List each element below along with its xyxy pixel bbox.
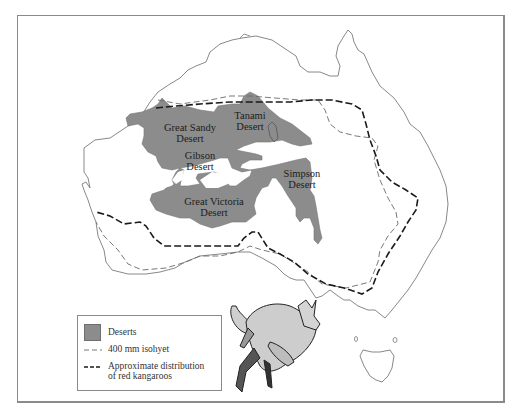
legend-label: Deserts: [108, 327, 137, 337]
island-king: [355, 337, 358, 342]
legend-label: Approximate distribution: [108, 361, 204, 371]
desert-label-simpson: Simpson Desert: [272, 168, 332, 190]
desert-name: Tanami: [220, 110, 280, 121]
desert-name: Gibson: [160, 150, 240, 161]
desert-name-suffix: Desert: [220, 121, 280, 132]
desert-name-suffix: Desert: [140, 133, 240, 144]
legend-label-continued: of red kangaroos: [108, 371, 172, 381]
desert-name-suffix: Desert: [164, 207, 264, 218]
desert-label-tanami: Tanami Desert: [220, 110, 280, 132]
island-flinders: [393, 338, 397, 343]
tasmania-coastline: [360, 350, 394, 382]
legend-item-isohyet: 400 mm isohyet: [108, 344, 169, 354]
legend-item-red-kangaroo: Approximate distribution of red kangaroo…: [108, 361, 204, 381]
legend-item-deserts: Deserts: [108, 327, 137, 337]
desert-name-suffix: Desert: [272, 179, 332, 190]
map-legend: Deserts 400 mm isohyet Approximate distr…: [77, 315, 222, 391]
desert-label-great-victoria: Great Victoria Desert: [164, 196, 264, 218]
thick-dashed-line-icon: [84, 365, 102, 369]
desert-swatch-icon: [84, 324, 101, 341]
desert-label-gibson: Gibson Desert: [160, 150, 240, 172]
desert-name-suffix: Desert: [160, 161, 240, 172]
kangaroo-illustration: [231, 300, 320, 392]
desert-name: Simpson: [272, 168, 332, 179]
desert-name: Great Victoria: [164, 196, 264, 207]
thin-dashed-line-icon: [84, 348, 102, 352]
legend-label: 400 mm isohyet: [108, 344, 169, 354]
